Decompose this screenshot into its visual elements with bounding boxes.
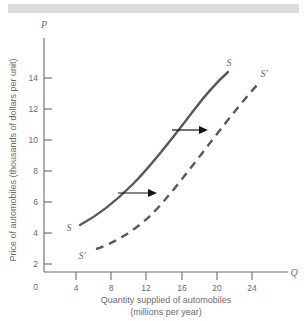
supply-curve-s	[80, 72, 228, 225]
x-tick-label-8: 8	[109, 283, 114, 293]
x-tick-label-12: 12	[141, 283, 151, 293]
y-tick-label-12: 12	[29, 104, 39, 114]
y-tick-label-10: 10	[29, 135, 39, 145]
y-tick-label-0: 0	[33, 282, 38, 292]
y-tick-label-8: 8	[33, 166, 38, 176]
shift-arrow-lower-head	[148, 189, 157, 197]
supply-curve-s-prime	[96, 83, 259, 249]
y-tick-label-4: 4	[33, 228, 38, 238]
x-tick-label-4: 4	[74, 283, 79, 293]
shift-arrow-upper-head	[199, 126, 208, 134]
curve-label-s-bottom: S	[67, 222, 72, 233]
x-tick-label-16: 16	[177, 283, 187, 293]
x-axis-letter-Q: Q	[290, 267, 298, 278]
supply-shift-chart: 14 12 10 8 6 4 2 0 4 8 12 16 20 24 P Q S…	[0, 0, 307, 321]
x-axis-caption-line1: Quantity supplied of automobiles	[101, 295, 232, 305]
curve-label-s-prime-top: S'	[260, 68, 268, 79]
y-axis-caption: Price of automobiles (thousands of dolla…	[8, 58, 18, 261]
supply-curve-figure: 14 12 10 8 6 4 2 0 4 8 12 16 20 24 P Q S…	[0, 0, 307, 321]
curve-label-s-prime-bottom: S'	[78, 250, 86, 261]
y-tick-label-14: 14	[29, 73, 39, 83]
x-tick-label-24: 24	[247, 283, 257, 293]
x-tick-label-20: 20	[212, 283, 222, 293]
y-axis-letter-P: P	[40, 19, 47, 30]
x-axis-caption-line2: (millions per year)	[130, 307, 202, 317]
y-tick-label-2: 2	[33, 259, 38, 269]
y-tick-label-6: 6	[33, 197, 38, 207]
curve-label-s-top: S	[227, 57, 232, 68]
